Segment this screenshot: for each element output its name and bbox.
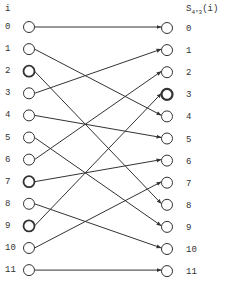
- edge-10-to-7: [35, 182, 162, 248]
- edge-2-to-8: [35, 71, 162, 203]
- right-node-2: [162, 67, 173, 78]
- edge-9-to-3: [35, 94, 162, 226]
- left-node-11: [24, 265, 35, 276]
- edge-3-to-1: [35, 49, 162, 93]
- right-node-7: [162, 177, 173, 188]
- left-node-1: [24, 44, 35, 55]
- left-node-9: [24, 220, 35, 231]
- left-node-6: [24, 154, 35, 165]
- right-node-5: [162, 133, 173, 144]
- right-node-9: [162, 221, 173, 232]
- edge-4-to-5: [35, 115, 162, 137]
- left-node-7: [24, 176, 35, 187]
- edge-7-to-6: [35, 160, 162, 182]
- edge-8-to-10: [35, 204, 162, 248]
- right-node-8: [162, 199, 173, 210]
- right-node-4: [162, 111, 173, 122]
- right-node-10: [162, 244, 173, 255]
- left-node-2: [24, 66, 35, 77]
- left-node-4: [24, 110, 35, 121]
- left-node-3: [24, 88, 35, 99]
- left-node-0: [24, 22, 35, 33]
- right-node-3: [162, 89, 173, 100]
- edge-6-to-2: [35, 71, 162, 159]
- edge-1-to-4: [35, 49, 162, 115]
- edges: [35, 27, 162, 270]
- permutation-network: [0, 0, 225, 284]
- right-node-11: [162, 266, 173, 277]
- edge-5-to-9: [35, 138, 162, 226]
- left-node-5: [24, 132, 35, 143]
- nodes: [24, 22, 173, 277]
- right-node-0: [162, 23, 173, 34]
- right-node-6: [162, 155, 173, 166]
- right-node-1: [162, 45, 173, 56]
- left-node-8: [24, 198, 35, 209]
- left-node-10: [24, 243, 35, 254]
